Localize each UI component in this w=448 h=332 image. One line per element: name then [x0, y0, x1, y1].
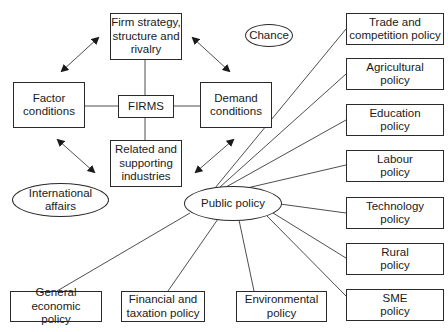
policy-box-labour: Labour policy [346, 150, 444, 182]
policy-box-general-economic: General economic policy [10, 291, 102, 322]
policy-box-rural: Rural policy [346, 243, 444, 275]
firm-strategy-box: Firm strategy, structure and rivalry [110, 13, 182, 60]
firms-box: FIRMS [118, 95, 174, 118]
chance-ellipse: Chance [245, 24, 293, 47]
policy-box-environmental: Environmental policy [236, 291, 327, 322]
demand-conditions-box: Demand conditions [200, 82, 272, 128]
policy-box-trade-competition: Trade and competition policy [346, 13, 444, 45]
international-affairs-ellipse: International affairs [12, 183, 109, 217]
factor-conditions-box: Factor conditions [13, 82, 85, 128]
related-industries-box: Related and supporting industries [110, 140, 182, 187]
policy-box-sme: SME policy [346, 289, 444, 321]
public-policy-ellipse: Public policy [184, 186, 282, 221]
policy-box-financial-taxation: Financial and taxation policy [121, 291, 205, 322]
policy-box-agricultural: Agricultural policy [346, 58, 444, 90]
policy-box-technology: Technology policy [346, 197, 444, 229]
policy-box-education: Education policy [346, 104, 444, 136]
